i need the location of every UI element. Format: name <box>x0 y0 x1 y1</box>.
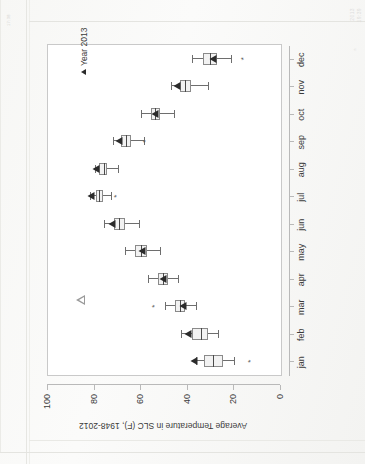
y-axis-tick <box>94 385 95 390</box>
y-axis-line <box>47 384 280 385</box>
faint-note-top-right-2: 19:39 <box>356 8 362 23</box>
faint-note-top-right-3: a <box>352 48 357 51</box>
page-fold-line-2 <box>29 0 30 464</box>
x-axis-tick-label: jul <box>296 193 306 202</box>
x-axis-tick <box>289 306 294 307</box>
x-axis-tick-label: oct <box>296 109 306 121</box>
y-axis-tick <box>280 385 281 390</box>
boxplot-whisker <box>192 58 202 59</box>
x-axis-tick <box>289 361 294 362</box>
page-border-top <box>29 21 365 22</box>
plot-frame: ***** Year 2013 <box>47 44 282 376</box>
y-axis-tick-label: 40 <box>182 394 192 404</box>
boxplot-outlier-marker: * <box>240 57 248 60</box>
y-axis-tick-label: 100 <box>42 394 52 409</box>
x-axis-tick-label: sep <box>296 135 306 150</box>
hollow-triangle-annotation-icon <box>76 295 85 305</box>
faint-note-top-right-1: 2013 <box>349 8 355 21</box>
page-edge-left <box>0 0 1 452</box>
faint-note-top-left: 17:38 <box>6 14 11 26</box>
legend: Year 2013 <box>78 28 89 75</box>
rotated-chart-wrapper: ***** Year 2013 020406080100janfebmarapr… <box>37 32 329 432</box>
x-axis-tick-label: dec <box>296 52 306 67</box>
y-axis-tick <box>47 385 48 390</box>
x-axis-tick-label: may <box>296 244 306 261</box>
boxplot-whisker-cap <box>192 55 193 63</box>
boxplot-whisker <box>217 58 231 59</box>
y-axis-tick-label: 20 <box>228 394 238 404</box>
triangle-marker-icon <box>81 69 86 75</box>
boxplot-whisker-cap <box>231 55 232 63</box>
y-axis-tick-label: 60 <box>135 394 145 404</box>
x-axis-tick <box>289 224 294 225</box>
boxplot-chart: ***** Year 2013 020406080100janfebmarapr… <box>37 32 329 432</box>
page-border-bottom <box>29 440 365 441</box>
x-axis-tick <box>289 334 294 335</box>
y-axis-tick-label: 0 <box>275 394 285 399</box>
x-axis-tick-label: feb <box>296 328 306 341</box>
x-axis-tick-label: apr <box>296 273 306 286</box>
x-axis-tick <box>289 251 294 252</box>
x-axis-tick-label: aug <box>296 162 306 177</box>
y-axis-tick-label: 80 <box>89 394 99 404</box>
x-axis-tick <box>289 86 294 87</box>
x-axis-tick <box>289 141 294 142</box>
y-axis-tick <box>140 385 141 390</box>
page-fold-line-1 <box>26 0 27 464</box>
boxplot-group: * <box>48 45 281 375</box>
legend-label: Year 2013 <box>79 28 89 66</box>
year-2013-marker <box>210 55 217 63</box>
x-axis-tick-label: nov <box>296 80 306 95</box>
x-axis-line <box>289 46 290 376</box>
x-axis-tick-label: jun <box>296 219 306 231</box>
x-axis-tick <box>289 279 294 280</box>
plot-inner-canvas: ***** <box>48 45 281 375</box>
x-axis-tick-label: jan <box>296 356 306 368</box>
x-axis-tick <box>289 59 294 60</box>
y-axis-tick <box>233 385 234 390</box>
x-axis-tick <box>289 196 294 197</box>
page-border-bottom-outer <box>0 452 365 453</box>
y-axis-tick <box>187 385 188 390</box>
x-axis-tick <box>289 114 294 115</box>
x-axis-tick <box>289 169 294 170</box>
y-axis-title: Average Temperature in SLC (F), 1948-201… <box>79 421 247 431</box>
x-axis-tick-label: mar <box>296 300 306 316</box>
